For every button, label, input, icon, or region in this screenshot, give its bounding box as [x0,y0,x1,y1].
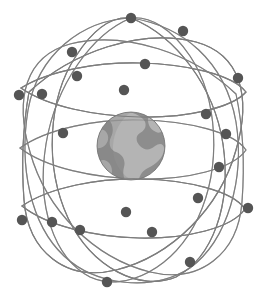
satellite-node-sat-07 [14,90,24,100]
globe-landmasses [91,111,164,186]
satellite-constellation-illustration: Satellite constellation orbiting Earth [0,0,265,300]
satellite-node-sat-03 [140,59,150,69]
orbit-equatorial-lower-front [22,179,245,238]
earth-globe [91,111,165,186]
satellite-node-sat-19 [201,109,211,119]
satellite-node-sat-02 [178,26,188,36]
constellation-canvas: Satellite constellation orbiting Earth [0,0,265,300]
satellite-node-sat-17 [185,257,195,267]
satellite-node-sat-10 [214,162,224,172]
satellite-node-sat-06 [119,85,129,95]
satellite-node-sat-20 [58,128,68,138]
satellite-node-sat-22 [67,47,77,57]
satellite-node-sat-04 [72,71,82,81]
satellite-node-sat-13 [17,215,27,225]
satellite-node-sat-12 [243,203,253,213]
satellite-node-sat-16 [147,227,157,237]
satellite-node-sat-08 [37,89,47,99]
satellite-node-sat-21 [193,193,203,203]
satellite-node-sat-18 [102,277,112,287]
satellite-node-sat-14 [47,217,57,227]
satellite-node-sat-15 [75,225,85,235]
satellite-node-sat-09 [221,129,231,139]
satellite-node-sat-05 [233,73,243,83]
satellite-node-sat-01 [126,13,136,23]
satellite-node-sat-11 [121,207,131,217]
